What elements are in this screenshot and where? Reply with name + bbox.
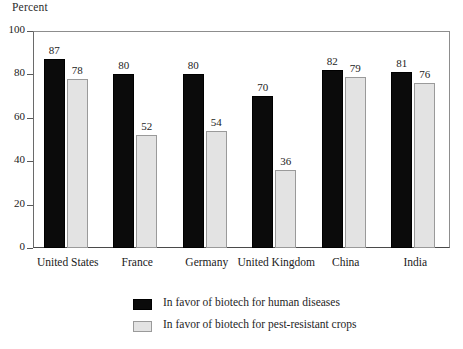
plot-area: 877880528054703682798176 bbox=[33, 31, 450, 248]
bar bbox=[206, 131, 227, 248]
chart-legend: In favor of biotech for human diseasesIn… bbox=[0, 296, 463, 342]
bar-value-label: 70 bbox=[246, 81, 280, 93]
bar bbox=[275, 170, 296, 248]
bar bbox=[414, 83, 435, 248]
bar bbox=[136, 135, 157, 248]
bar-value-label: 78 bbox=[60, 64, 94, 76]
bar bbox=[113, 74, 134, 248]
legend-label: In favor of biotech for pest-resistant c… bbox=[163, 318, 357, 330]
bar-value-label: 87 bbox=[37, 44, 71, 56]
bar-value-label: 36 bbox=[269, 155, 303, 167]
legend-label: In favor of biotech for human diseases bbox=[163, 296, 340, 308]
bar bbox=[345, 77, 366, 248]
bar-value-label: 52 bbox=[130, 120, 164, 132]
bar bbox=[252, 96, 273, 248]
legend-swatch-light bbox=[133, 321, 152, 332]
y-axis-tick-label: 0 bbox=[1, 240, 25, 252]
legend-swatch-dark bbox=[133, 299, 152, 310]
y-axis-tick-label: 100 bbox=[1, 23, 25, 35]
y-axis-tick-label: 80 bbox=[1, 66, 25, 78]
bar-value-label: 76 bbox=[408, 68, 442, 80]
bar-value-label: 54 bbox=[199, 116, 233, 128]
bar bbox=[183, 74, 204, 248]
bar bbox=[322, 70, 343, 248]
bar-value-label: 80 bbox=[107, 59, 141, 71]
bar-value-label: 79 bbox=[338, 62, 372, 74]
x-axis-category-label: India bbox=[366, 256, 463, 268]
bar-value-label: 80 bbox=[176, 59, 210, 71]
y-axis-tick-label: 40 bbox=[1, 153, 25, 165]
y-axis-tick-label: 60 bbox=[1, 110, 25, 122]
bar bbox=[44, 59, 65, 248]
y-axis-tick-label: 20 bbox=[1, 197, 25, 209]
y-axis-tick-mark bbox=[27, 248, 33, 249]
bar-chart: Percent 020406080100 8778805280547036827… bbox=[0, 0, 463, 349]
bar bbox=[67, 79, 88, 248]
bar bbox=[391, 72, 412, 248]
